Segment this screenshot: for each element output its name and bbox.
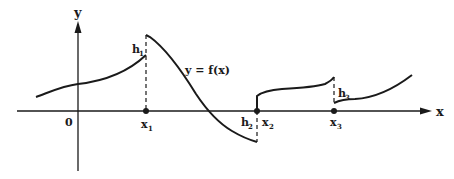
curve-segment-1 <box>36 55 146 97</box>
origin-label: 0 <box>65 116 73 129</box>
label-h1: h 1 <box>132 43 144 58</box>
x-axis-arrow-icon <box>420 108 432 115</box>
piecewise-function-diagram: y x 0 y = f(x) x 1 x 2 x 3 h 1 h 2 h 3 <box>0 0 454 179</box>
svg-text:3: 3 <box>337 122 342 131</box>
svg-text:1: 1 <box>148 124 153 133</box>
svg-text:1: 1 <box>139 49 144 58</box>
point-x2 <box>254 108 260 114</box>
svg-text:x: x <box>141 118 148 131</box>
function-label: y = f(x) <box>184 64 230 77</box>
curve-segment-3 <box>257 77 334 111</box>
y-axis-arrow-icon <box>75 21 82 33</box>
svg-text:2: 2 <box>269 122 274 131</box>
svg-text:2: 2 <box>248 122 253 131</box>
x-axis-label: x <box>436 104 444 119</box>
svg-text:x: x <box>262 116 269 129</box>
svg-text:x: x <box>330 116 337 129</box>
point-x3 <box>331 108 337 114</box>
label-x3: x 3 <box>330 116 342 131</box>
label-x1: x 1 <box>141 118 153 133</box>
svg-text:3: 3 <box>345 93 350 102</box>
label-h3: h 3 <box>338 87 350 102</box>
label-x2: x 2 <box>262 116 274 131</box>
label-h2: h 2 <box>241 116 253 131</box>
y-axis-label: y <box>73 5 82 20</box>
point-x1 <box>143 108 149 114</box>
